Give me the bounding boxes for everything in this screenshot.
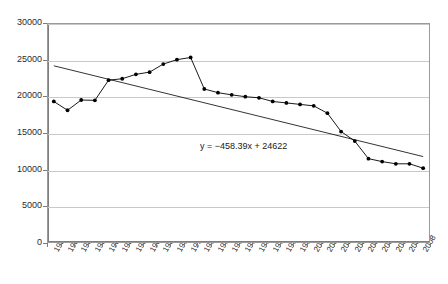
series-line [54, 57, 423, 168]
data-point-2002 [339, 130, 343, 134]
data-point-1993 [216, 91, 220, 95]
data-point-2004 [367, 157, 371, 161]
data-point-1989 [161, 62, 165, 66]
data-point-2007 [408, 162, 412, 166]
data-point-1982 [66, 108, 70, 112]
data-point-1995 [243, 95, 247, 99]
data-point-1999 [298, 103, 302, 107]
data-point-1988 [148, 70, 152, 74]
data-point-1997 [271, 100, 275, 104]
data-point-1986 [120, 77, 124, 81]
data-point-1991 [189, 56, 193, 60]
data-point-2000 [312, 104, 316, 108]
data-point-1998 [284, 101, 288, 105]
data-point-1994 [230, 93, 234, 97]
data-point-1996 [257, 96, 261, 100]
data-point-1983 [79, 98, 83, 102]
data-point-2005 [380, 160, 384, 164]
data-point-1981 [52, 100, 56, 104]
data-point-2008 [421, 166, 425, 170]
data-point-1987 [134, 72, 138, 76]
data-point-2001 [326, 111, 330, 115]
data-point-1990 [175, 58, 179, 62]
data-point-2006 [394, 162, 398, 166]
trendline-equation-label: y = −458.39x + 24622 [200, 141, 287, 151]
data-point-1992 [202, 87, 206, 91]
chart-container: 050001000015000200002500030000 198119821… [0, 0, 448, 284]
data-point-1984 [93, 98, 97, 102]
